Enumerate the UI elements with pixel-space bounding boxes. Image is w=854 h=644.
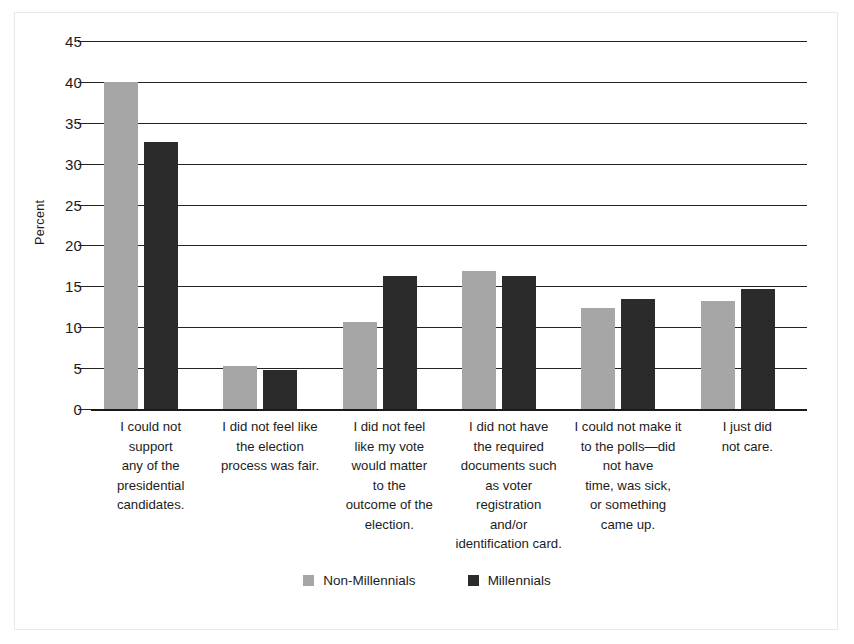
category-label-line: I just did xyxy=(682,417,813,437)
bar xyxy=(701,301,735,409)
category-label-line: the required xyxy=(443,437,574,457)
legend-item[interactable]: Millennials xyxy=(468,573,551,588)
category-label-line: election. xyxy=(324,515,455,535)
bar xyxy=(621,299,655,409)
category-label-line: outcome of the xyxy=(324,495,455,515)
legend-label: Non-Millennials xyxy=(323,573,415,588)
y-axis-tick-label: 10 xyxy=(65,319,82,336)
category-label-line: like my vote xyxy=(324,437,455,457)
category-label-line: or something xyxy=(562,495,693,515)
y-axis-tick-label: 20 xyxy=(65,237,82,254)
category-label-line: not have xyxy=(562,456,693,476)
category-axis-labels: I could notsupportany of thepresidential… xyxy=(91,417,807,577)
bar xyxy=(144,142,178,409)
category-label-line: I did not have xyxy=(443,417,574,437)
y-axis-tick-label: 5 xyxy=(73,360,82,377)
category-label-line: to the xyxy=(324,476,455,496)
category-label-line: documents such xyxy=(443,456,574,476)
y-axis-tick-label: 30 xyxy=(65,155,82,172)
category-label-line: process was fair. xyxy=(204,456,335,476)
category-label-line: to the polls—did xyxy=(562,437,693,457)
category-label-line: would matter xyxy=(324,456,455,476)
category-label-line: registration xyxy=(443,495,574,515)
y-axis-tick-label: 35 xyxy=(65,114,82,131)
bar-group xyxy=(568,41,687,409)
bar xyxy=(263,370,297,409)
category-label-line: identification card. xyxy=(443,534,574,554)
category-label: I did not havethe requireddocuments such… xyxy=(443,417,574,554)
category-label-line: I did not feel like xyxy=(204,417,335,437)
plot-area: 454035302520151050 xyxy=(91,41,807,409)
bar-group xyxy=(449,41,568,409)
category-label-line: I did not feel xyxy=(324,417,455,437)
bar-group xyxy=(210,41,329,409)
x-axis-baseline xyxy=(91,409,807,411)
chart-figure: Percent 454035302520151050 I could notsu… xyxy=(14,12,838,630)
bar xyxy=(581,308,615,409)
bar xyxy=(223,366,257,409)
y-axis-tick-label: 15 xyxy=(65,278,82,295)
bar-group xyxy=(91,41,210,409)
legend-label: Millennials xyxy=(488,573,551,588)
category-label-line: the election xyxy=(204,437,335,457)
legend-swatch-icon xyxy=(303,575,314,586)
category-label-line: time, was sick, xyxy=(562,476,693,496)
y-axis-tick-label: 45 xyxy=(65,33,82,50)
y-axis-tick-label: 25 xyxy=(65,196,82,213)
category-label-line: I could not make it xyxy=(562,417,693,437)
category-label-line: any of the xyxy=(85,456,216,476)
y-axis-tick-label: 40 xyxy=(65,73,82,90)
category-label-line: not care. xyxy=(682,437,813,457)
category-label: I could notsupportany of thepresidential… xyxy=(85,417,216,515)
bar xyxy=(741,289,775,409)
bar xyxy=(104,82,138,409)
bar xyxy=(462,271,496,409)
category-label: I did not feel likethe electionprocess w… xyxy=(204,417,335,476)
bar xyxy=(343,322,377,410)
category-label-line: presidential xyxy=(85,476,216,496)
category-label-line: I could not xyxy=(85,417,216,437)
y-axis-title: Percent xyxy=(33,200,47,245)
category-label: I just didnot care. xyxy=(682,417,813,456)
category-label-line: support xyxy=(85,437,216,457)
bar xyxy=(502,276,536,409)
bar xyxy=(383,276,417,409)
y-axis-tick-label: 0 xyxy=(73,401,82,418)
category-label: I could not make itto the polls—didnot h… xyxy=(562,417,693,534)
legend-item[interactable]: Non-Millennials xyxy=(303,573,415,588)
category-label-line: and/or xyxy=(443,515,574,535)
legend-swatch-icon xyxy=(468,575,479,586)
category-label-line: as voter xyxy=(443,476,574,496)
category-label: I did not feellike my votewould matterto… xyxy=(324,417,455,534)
category-label-line: came up. xyxy=(562,515,693,535)
bar-group xyxy=(330,41,449,409)
bar-group xyxy=(688,41,807,409)
category-label-line: candidates. xyxy=(85,495,216,515)
chart-legend: Non-MillennialsMillennials xyxy=(15,573,839,588)
